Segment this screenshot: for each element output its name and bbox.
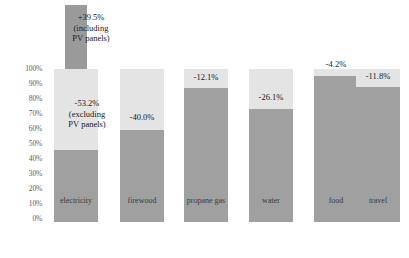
annotation-including-pv-line1: (including xyxy=(46,23,136,34)
y-axis-tick: 50% xyxy=(29,140,42,148)
bar-value-firewood xyxy=(120,130,164,222)
y-axis-tick: 30% xyxy=(29,170,42,178)
bar-chart: 100% 90% 80% 70% 60% 50% 40% 30% 20% 10%… xyxy=(0,0,409,258)
bar-data-label-propane-gas: -12.1% xyxy=(184,72,228,82)
annotation-including-pv: +39.5% (including PV panels) xyxy=(46,12,136,44)
bar-value-electricity xyxy=(54,150,98,222)
annotation-excluding-pv-line2: PV panels) xyxy=(44,119,130,130)
x-axis-label-electricity: electricity xyxy=(38,196,114,206)
plot-area: electricity -40.0% firewood -12.1% propa… xyxy=(46,0,409,258)
y-axis: 100% 90% 80% 70% 60% 50% 40% 30% 20% 10%… xyxy=(0,0,46,258)
y-axis-tick: 100% xyxy=(25,65,42,73)
bar-data-label-food: -4.2% xyxy=(314,59,358,69)
annotation-including-pv-line2: PV panels) xyxy=(46,33,136,44)
y-axis-tick: 90% xyxy=(29,80,42,88)
x-axis-label-travel: travel xyxy=(340,196,409,206)
annotation-including-pv-value: +39.5% xyxy=(46,12,136,23)
y-axis-tick: 20% xyxy=(29,185,42,193)
bar-data-label-travel: -11.8% xyxy=(356,71,400,81)
y-axis-tick: 60% xyxy=(29,125,42,133)
y-axis-tick: 0% xyxy=(32,215,42,223)
bar-data-label-water: -26.1% xyxy=(249,92,293,102)
y-axis-tick: 70% xyxy=(29,110,42,118)
annotation-excluding-pv: -53.2% (excluding PV panels) xyxy=(44,98,130,130)
annotation-excluding-pv-value: -53.2% xyxy=(44,98,130,109)
y-axis-tick: 40% xyxy=(29,155,42,163)
annotation-excluding-pv-line1: (excluding xyxy=(44,109,130,120)
y-axis-tick: 80% xyxy=(29,95,42,103)
